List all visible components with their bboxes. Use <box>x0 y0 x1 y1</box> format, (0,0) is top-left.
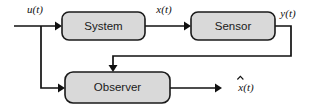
signal-label-x: x(t) <box>155 3 172 16</box>
wire-xhat-observer-output <box>170 84 222 93</box>
block-observer[interactable]: Observer <box>65 72 170 103</box>
arrowhead-u-system <box>55 22 62 31</box>
block-sensor[interactable]: Sensor <box>191 12 275 40</box>
signal-label-y: y(t) <box>279 7 296 20</box>
signal-x-arg: (t) <box>161 3 172 16</box>
signal-u-arg: (t) <box>33 3 44 16</box>
wire-u-branch-to-observer <box>41 26 65 93</box>
diagram-canvas: System Sensor Observer u(t) x(t) y(t) <box>0 0 309 112</box>
block-system[interactable]: System <box>62 12 145 40</box>
signal-label-xhat: x(t) <box>237 76 254 93</box>
block-system-label: System <box>84 20 122 32</box>
wire-u-to-system <box>14 22 62 31</box>
signal-label-u: u(t) <box>27 3 43 16</box>
arrowhead-xhat-output <box>215 84 222 93</box>
arrowhead-x-sensor <box>184 22 191 31</box>
block-sensor-label: Sensor <box>215 20 252 32</box>
svg-text:x(t): x(t) <box>237 81 254 94</box>
signal-y-arg: (t) <box>285 7 296 20</box>
observer-block-diagram: System Sensor Observer u(t) x(t) y(t) <box>0 0 309 112</box>
svg-text:u(t): u(t) <box>27 3 43 16</box>
wire-x-system-to-sensor <box>145 22 191 31</box>
block-observer-label: Observer <box>94 81 141 93</box>
svg-text:y(t): y(t) <box>279 7 296 20</box>
arrowhead-y-observer <box>109 65 118 72</box>
svg-text:x(t): x(t) <box>155 3 172 16</box>
signal-xhat-arg: (t) <box>243 81 254 94</box>
arrowhead-u-observer <box>58 84 65 93</box>
hat-accent-icon <box>237 76 243 79</box>
